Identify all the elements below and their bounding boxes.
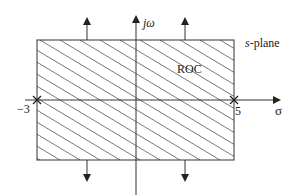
- marker-label-left: −3: [17, 102, 30, 116]
- real-axis-label: σ: [275, 103, 282, 118]
- roc-label: ROC: [177, 62, 202, 76]
- s-plane-diagram: jω s-plane ROC −3 5 σ: [0, 0, 299, 196]
- marker-label-right: 5: [235, 104, 241, 118]
- s-plane-label: s-plane: [245, 36, 280, 50]
- imag-axis-label: jω: [141, 16, 155, 30]
